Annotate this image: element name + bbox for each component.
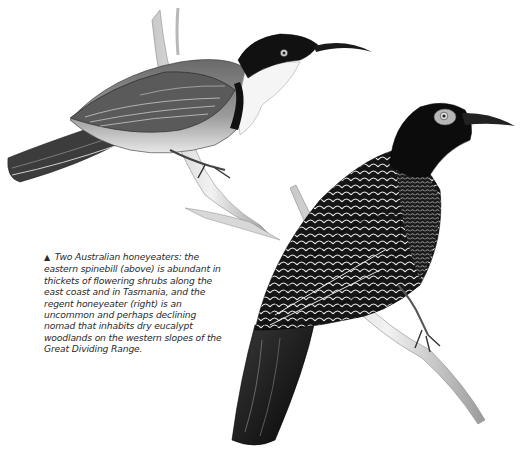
regent-honeyeater-illustration [232,103,515,445]
triangle-marker-icon: ▲ [44,253,50,262]
figure-caption: ▲ Two Australian honeyeaters: the easter… [44,251,230,355]
bird-illustration [0,0,523,464]
caption-text: Two Australian honeyeaters: the eastern … [44,251,222,354]
eastern-spinebill-illustration [8,34,372,182]
